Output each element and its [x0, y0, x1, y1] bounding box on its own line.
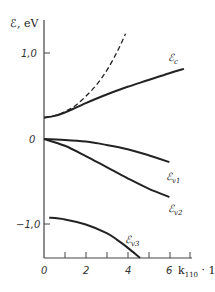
label-ev3: ℰv3 [125, 234, 140, 248]
curve-2 [44, 139, 169, 162]
y-tick-label-minus1: −1,0 [16, 219, 40, 230]
y-tick-label-1: 1,0 [21, 48, 37, 59]
curve-3 [44, 139, 169, 197]
curve-0 [44, 69, 184, 118]
y-axis-title: ℰ, eV [10, 17, 40, 30]
y-tick-label-0: 0 [29, 134, 35, 145]
x-tick-label-4: 4 [125, 265, 131, 276]
x-ticks [65, 252, 190, 258]
label-ev1: ℰv1 [166, 171, 180, 185]
curve-1 [44, 34, 126, 118]
label-ev2: ℰv2 [168, 203, 183, 217]
band-structure-chart: ℰ, eV 1,0 0 −1,0 0 2 4 6 k110 · 1 ℰc ℰv1… [0, 0, 215, 292]
x-tick-label-6: 6 [166, 265, 172, 276]
curves [44, 34, 184, 258]
x-tick-label-2: 2 [83, 265, 89, 276]
x-axis-title: k110 · 1 [178, 264, 215, 279]
label-ec: ℰc [168, 52, 178, 66]
x-tick-label-0: 0 [41, 265, 47, 276]
